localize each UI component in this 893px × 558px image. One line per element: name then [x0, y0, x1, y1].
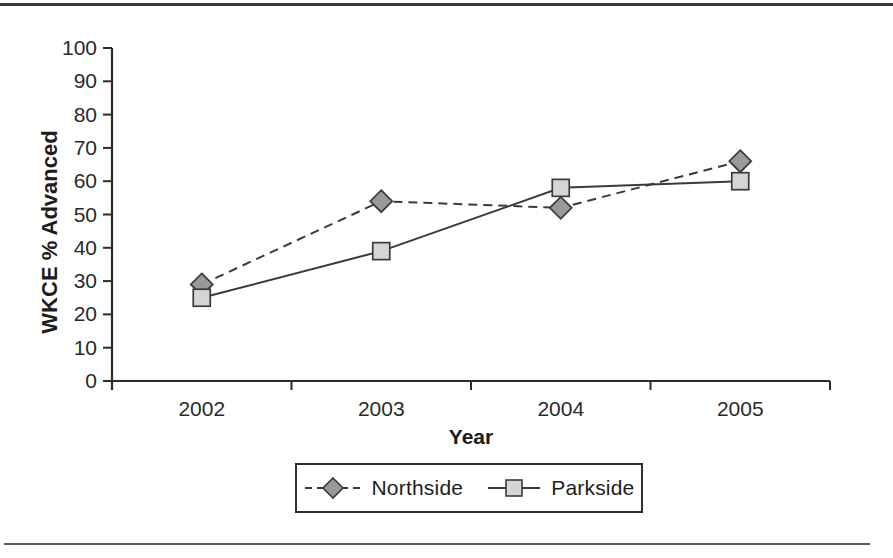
x-tick-label: 2002 — [178, 397, 225, 420]
y-tick-label: 50 — [74, 203, 97, 226]
x-tick-label: 2003 — [358, 397, 405, 420]
y-tick-label: 60 — [74, 169, 97, 192]
legend-box: Northside Parkside — [295, 463, 643, 513]
x-tick-label: 2005 — [717, 397, 764, 420]
x-tick-label: 2004 — [537, 397, 584, 420]
series-line-parkside — [202, 181, 741, 298]
diamond-marker — [370, 190, 392, 212]
series-line-northside — [202, 161, 741, 284]
legend-item-northside: Northside — [304, 476, 464, 500]
figure-container: 01020304050607080901002002200320042005WK… — [0, 0, 893, 558]
y-tick-label: 80 — [74, 103, 97, 126]
legend-label-parkside: Parkside — [551, 476, 634, 500]
bottom-horizontal-rule — [4, 543, 870, 545]
square-marker — [373, 243, 390, 260]
diamond-dashed-line-icon — [304, 476, 362, 500]
y-tick-label: 100 — [62, 36, 97, 59]
legend-label-northside: Northside — [372, 476, 464, 500]
square-marker — [552, 179, 569, 196]
square-solid-line-icon — [487, 476, 541, 500]
y-tick-label: 70 — [74, 136, 97, 159]
square-marker — [193, 289, 210, 306]
diamond-marker — [550, 197, 572, 219]
y-axis-title: WKCE % Advanced — [37, 130, 62, 333]
square-marker — [732, 173, 749, 190]
y-tick-label: 10 — [74, 336, 97, 359]
legend-item-parkside: Parkside — [487, 476, 634, 500]
chart-svg: 01020304050607080901002002200320042005WK… — [0, 0, 893, 460]
y-tick-label: 0 — [85, 369, 97, 392]
y-tick-label: 20 — [74, 302, 97, 325]
y-tick-label: 30 — [74, 269, 97, 292]
y-tick-label: 40 — [74, 236, 97, 259]
diamond-marker — [729, 150, 751, 172]
y-tick-label: 90 — [74, 69, 97, 92]
x-axis-title: Year — [449, 425, 493, 448]
